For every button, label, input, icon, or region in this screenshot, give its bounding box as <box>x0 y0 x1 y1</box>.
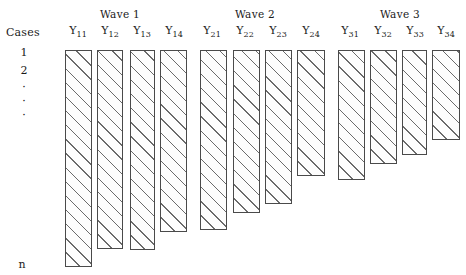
column-label-subscript: 31 <box>348 30 358 39</box>
column-label-y32: Y32 <box>367 24 399 39</box>
column-label-y34: Y34 <box>430 24 462 39</box>
column-label-subscript: 32 <box>381 30 391 39</box>
bar-y23 <box>265 50 292 204</box>
column-label-subscript: 12 <box>108 30 118 39</box>
column-label-y21: Y21 <box>196 24 228 39</box>
bar-y14 <box>160 50 187 232</box>
column-label-y24: Y24 <box>295 24 327 39</box>
bar-y12 <box>97 50 123 249</box>
bar-y13 <box>130 50 155 250</box>
column-label-subscript: 13 <box>140 30 150 39</box>
column-label-subscript: 33 <box>413 30 423 39</box>
column-label-subscript: 11 <box>76 30 86 39</box>
case-ellipsis-dot-2: · <box>0 100 48 104</box>
bar-y32 <box>370 50 397 164</box>
figure-canvas: Cases 1 2 · · · n Wave 1 Wave 2 Wave 3 Y… <box>0 0 466 275</box>
column-label-y31: Y31 <box>334 24 366 39</box>
column-label-subscript: 24 <box>309 30 319 39</box>
case-ellipsis-dot-1: · <box>0 86 48 90</box>
column-label-y23: Y23 <box>262 24 294 39</box>
column-label-y33: Y33 <box>399 24 431 39</box>
bar-y11 <box>65 50 92 267</box>
column-label-subscript: 14 <box>172 30 182 39</box>
column-label-subscript: 34 <box>444 30 454 39</box>
bar-y21 <box>200 50 227 230</box>
case-row-label-n: n <box>0 258 44 271</box>
wave-title-2: Wave 2 <box>215 8 295 20</box>
column-label-y14: Y14 <box>158 24 190 39</box>
bar-y33 <box>402 50 427 155</box>
cases-axis-title: Cases <box>6 26 56 39</box>
column-label-subscript: 22 <box>243 30 253 39</box>
bar-y24 <box>297 50 325 176</box>
column-label-subscript: 21 <box>210 30 220 39</box>
case-row-label-2: 2 <box>0 64 48 77</box>
bar-y31 <box>338 50 365 180</box>
column-label-y12: Y12 <box>94 24 126 39</box>
column-label-y13: Y13 <box>126 24 158 39</box>
bar-y22 <box>233 50 260 213</box>
case-row-label-1: 1 <box>0 46 48 59</box>
wave-title-3: Wave 3 <box>360 8 440 20</box>
bar-y34 <box>432 50 460 140</box>
column-label-subscript: 23 <box>276 30 286 39</box>
cases-axis: Cases 1 2 · · · n <box>0 0 56 275</box>
column-label-y11: Y11 <box>62 24 94 39</box>
column-label-y22: Y22 <box>229 24 261 39</box>
case-ellipsis-dot-3: · <box>0 114 48 118</box>
wave-title-1: Wave 1 <box>80 8 160 20</box>
